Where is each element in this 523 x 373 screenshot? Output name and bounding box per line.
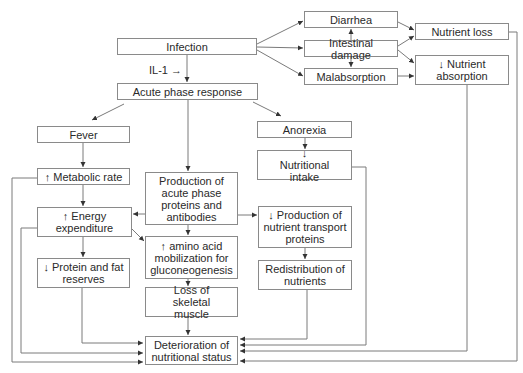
deterioration-label: Deterioration of nutritional status bbox=[149, 339, 234, 363]
metabolic-rate-box: ↑ Metabolic rate bbox=[37, 168, 130, 185]
acute-phase-response-label: Acute phase response bbox=[133, 86, 242, 98]
fever-label: Fever bbox=[69, 129, 97, 141]
nutrient-absorption-box: ↓ Nutrient absorption bbox=[415, 55, 509, 85]
diarrhea-label: Diarrhea bbox=[330, 14, 372, 26]
il1-label: IL-1 → bbox=[149, 64, 182, 76]
malabsorption-label: Malabsorption bbox=[316, 71, 385, 83]
production-acute-phase-label: Production of acute phase proteins and a… bbox=[154, 175, 229, 223]
nutritional-intake-label: ↓ Nutritional intake bbox=[276, 147, 333, 183]
loss-skeletal-muscle-label: Loss of skeletal muscle bbox=[156, 284, 227, 320]
protein-fat-reserves-label: ↓ Protein and fat reserves bbox=[41, 261, 126, 285]
intestinal-damage-label: Intestinal damage bbox=[308, 37, 394, 61]
anorexia-box: Anorexia bbox=[257, 121, 352, 138]
loss-skeletal-muscle-box: Loss of skeletal muscle bbox=[145, 287, 238, 317]
energy-expenditure-label: ↑ Energy expenditure bbox=[54, 210, 115, 234]
transport-proteins-label: ↓ Production of nutrient transport prote… bbox=[261, 209, 349, 245]
anorexia-label: Anorexia bbox=[283, 124, 326, 136]
deterioration-box: Deterioration of nutritional status bbox=[145, 336, 238, 365]
malabsorption-box: Malabsorption bbox=[304, 68, 398, 85]
diarrhea-box: Diarrhea bbox=[304, 11, 398, 28]
nutrient-loss-label: Nutrient loss bbox=[431, 26, 492, 38]
infection-box: Infection bbox=[117, 38, 257, 55]
metabolic-rate-label: ↑ Metabolic rate bbox=[45, 171, 123, 183]
nutritional-intake-box: ↓ Nutritional intake bbox=[257, 150, 352, 180]
redistribution-label: Redistribution of nutrients bbox=[262, 263, 348, 287]
energy-expenditure-box: ↑ Energy expenditure bbox=[37, 207, 132, 237]
acute-phase-response-box: Acute phase response bbox=[117, 83, 258, 100]
amino-acid-mobilization-box: ↑ amino acid mobilization for gluconeoge… bbox=[145, 236, 238, 279]
nutrient-loss-box: Nutrient loss bbox=[415, 23, 509, 40]
nutrient-absorption-label: ↓ Nutrient absorption bbox=[434, 58, 490, 82]
protein-fat-reserves-box: ↓ Protein and fat reserves bbox=[37, 258, 130, 288]
fever-box: Fever bbox=[37, 126, 130, 143]
redistribution-box: Redistribution of nutrients bbox=[258, 260, 352, 290]
transport-proteins-box: ↓ Production of nutrient transport prote… bbox=[258, 206, 352, 248]
flowchart-canvas: Infection IL-1 → Acute phase response Di… bbox=[0, 0, 523, 373]
amino-acid-mobilization-label: ↑ amino acid mobilization for gluconeoge… bbox=[148, 240, 235, 276]
intestinal-damage-box: Intestinal damage bbox=[304, 40, 398, 57]
infection-label: Infection bbox=[166, 41, 208, 53]
production-acute-phase-box: Production of acute phase proteins and a… bbox=[145, 172, 238, 225]
